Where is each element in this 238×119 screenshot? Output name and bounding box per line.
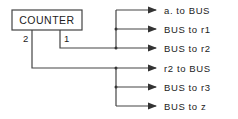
output-label-r2-to-bus: r2 to BUS [164, 63, 211, 74]
counter-control-diagram: COUNTER 2 1 a. to BUS BUS to r1 BUS to r… [0, 0, 238, 119]
port-1-label: 1 [64, 33, 69, 44]
counter-box: COUNTER [12, 10, 82, 30]
port-2-label: 2 [23, 33, 28, 44]
counter-label: COUNTER [19, 14, 74, 26]
output-label-bus-to-r1: BUS to r1 [164, 24, 211, 35]
output-label-bus-to-z: BUS to z [164, 101, 206, 112]
output-label-bus-to-r3: BUS to r3 [164, 82, 211, 93]
output-label-a-to-bus: a. to BUS [164, 5, 210, 16]
port-2-wiring [32, 30, 156, 106]
output-label-bus-to-r2: BUS to r2 [164, 43, 211, 54]
